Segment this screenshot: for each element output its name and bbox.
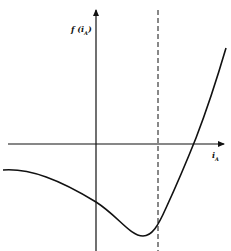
y-axis-label: f (iA) bbox=[71, 24, 92, 36]
function-curve bbox=[3, 48, 226, 236]
x-axis-label: iA bbox=[212, 150, 219, 162]
function-plot bbox=[0, 0, 231, 251]
